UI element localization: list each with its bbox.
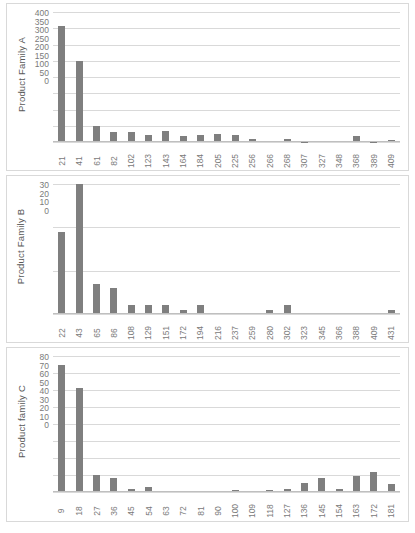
x-tick: 388: [348, 316, 365, 350]
bar-column[interactable]: [192, 12, 209, 142]
bar-column[interactable]: [88, 356, 105, 492]
bar-column[interactable]: [105, 184, 122, 314]
x-tick: 225: [226, 144, 243, 178]
bar-column[interactable]: [157, 356, 174, 492]
plot-area-a: [53, 12, 400, 142]
bar-column[interactable]: [174, 356, 191, 492]
bar-column[interactable]: [53, 12, 70, 142]
bar-column[interactable]: [383, 12, 400, 142]
bar-column[interactable]: [313, 184, 330, 314]
bar-column[interactable]: [296, 12, 313, 142]
x-tick-label: 41: [74, 156, 84, 165]
bar-column[interactable]: [192, 184, 209, 314]
bar-column[interactable]: [140, 356, 157, 492]
chart-panel-product-family-a[interactable]: Product Family A 40035030025020015010050…: [6, 3, 409, 171]
bar-column[interactable]: [278, 12, 295, 142]
x-tick-label: 145: [317, 504, 327, 518]
bar-column[interactable]: [88, 184, 105, 314]
x-tick: 27: [88, 494, 105, 528]
bar-column[interactable]: [244, 184, 261, 314]
bar-column[interactable]: [296, 184, 313, 314]
x-tick-label: 136: [299, 504, 309, 518]
bar-column[interactable]: [226, 356, 243, 492]
x-tick: 63: [157, 494, 174, 528]
bar-column[interactable]: [209, 184, 226, 314]
bar-column[interactable]: [331, 184, 348, 314]
bar-column[interactable]: [278, 356, 295, 492]
x-tick-label: 82: [109, 156, 119, 165]
x-tick-label: 36: [109, 506, 119, 515]
x-tick: 102: [122, 144, 139, 178]
chart-panel-product-family-c[interactable]: Product family C 80706050403020100 91827…: [6, 347, 409, 522]
x-tick-label: 323: [299, 326, 309, 340]
bar-column[interactable]: [261, 184, 278, 314]
bar-column[interactable]: [226, 184, 243, 314]
x-tick-label: 45: [126, 506, 136, 515]
bar-column[interactable]: [365, 12, 382, 142]
bar: [58, 232, 65, 314]
bar-column[interactable]: [70, 184, 87, 314]
bar-column[interactable]: [157, 184, 174, 314]
x-tick: 82: [105, 144, 122, 178]
x-tick-label: 368: [352, 154, 362, 168]
bar-column[interactable]: [88, 12, 105, 142]
bar-column[interactable]: [140, 184, 157, 314]
x-tick: 163: [348, 494, 365, 528]
x-tick: 184: [192, 144, 209, 178]
bar-column[interactable]: [174, 12, 191, 142]
bar-series-a: [53, 12, 400, 142]
x-tick: 366: [331, 316, 348, 350]
x-tick-label: 127: [282, 504, 292, 518]
x-tick-label: 100: [230, 504, 240, 518]
bar-column[interactable]: [209, 12, 226, 142]
bar-column[interactable]: [383, 184, 400, 314]
bar-column[interactable]: [244, 356, 261, 492]
bar-column[interactable]: [122, 356, 139, 492]
x-tick: 90: [209, 494, 226, 528]
bar-column[interactable]: [365, 184, 382, 314]
bar-column[interactable]: [278, 184, 295, 314]
x-tick-label: 307: [299, 154, 309, 168]
bar-column[interactable]: [53, 184, 70, 314]
bar-column[interactable]: [122, 184, 139, 314]
x-tick: 348: [331, 144, 348, 178]
bar-column[interactable]: [140, 12, 157, 142]
x-tick: 172: [365, 494, 382, 528]
bar-column[interactable]: [53, 356, 70, 492]
bar-column[interactable]: [192, 356, 209, 492]
bar-column[interactable]: [226, 12, 243, 142]
bar-column[interactable]: [348, 184, 365, 314]
bar-column[interactable]: [122, 12, 139, 142]
bar-column[interactable]: [105, 356, 122, 492]
x-tick: 256: [244, 144, 261, 178]
bar-column[interactable]: [261, 12, 278, 142]
y-axis-ticks-b: 3020100: [27, 184, 49, 218]
chart-panel-product-family-b[interactable]: Product Family B 3020100 224365861081291…: [6, 175, 409, 343]
bar-column[interactable]: [157, 12, 174, 142]
bar-column[interactable]: [296, 356, 313, 492]
bar-column[interactable]: [383, 356, 400, 492]
worksheet-canvas: Product Family A 40035030025020015010050…: [0, 3, 415, 533]
bar-column[interactable]: [244, 12, 261, 142]
bar-column[interactable]: [348, 12, 365, 142]
x-tick-label: 61: [91, 156, 101, 165]
x-tick: 194: [192, 316, 209, 350]
bar-column[interactable]: [348, 356, 365, 492]
bar-column[interactable]: [313, 356, 330, 492]
bar-column[interactable]: [209, 356, 226, 492]
bar-column[interactable]: [331, 12, 348, 142]
bar-column[interactable]: [331, 356, 348, 492]
bar-column[interactable]: [365, 356, 382, 492]
bar-column[interactable]: [70, 356, 87, 492]
x-tick: 431: [383, 316, 400, 350]
y-tick-label: 0: [44, 77, 49, 86]
gridline: [53, 314, 400, 315]
bar-column[interactable]: [313, 12, 330, 142]
bar-column[interactable]: [70, 12, 87, 142]
x-tick-label: 266: [265, 154, 275, 168]
x-tick: 143: [157, 144, 174, 178]
bar-column[interactable]: [105, 12, 122, 142]
x-tick: 100: [226, 494, 243, 528]
bar-column[interactable]: [261, 356, 278, 492]
bar-column[interactable]: [174, 184, 191, 314]
